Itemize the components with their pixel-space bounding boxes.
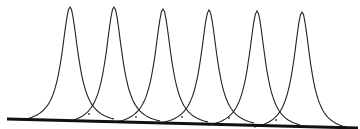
overlap-dot-2 bbox=[135, 116, 137, 118]
peak-curves bbox=[26, 7, 346, 127]
peaks-diagram bbox=[0, 0, 360, 129]
overlap-dot-4 bbox=[228, 117, 230, 119]
overlap-dots bbox=[88, 113, 277, 121]
peak-curve-2 bbox=[70, 7, 160, 121]
overlap-dot-3 bbox=[181, 116, 183, 118]
peak-curve-4 bbox=[160, 10, 254, 123]
overlap-dot-5 bbox=[275, 119, 277, 121]
overlap-dot-1 bbox=[88, 113, 90, 115]
peak-curve-3 bbox=[116, 9, 208, 122]
baseline bbox=[7, 119, 358, 128]
peak-curve-5 bbox=[208, 11, 300, 125]
peak-curve-1 bbox=[26, 7, 114, 119]
peak-curve-6 bbox=[254, 12, 346, 127]
